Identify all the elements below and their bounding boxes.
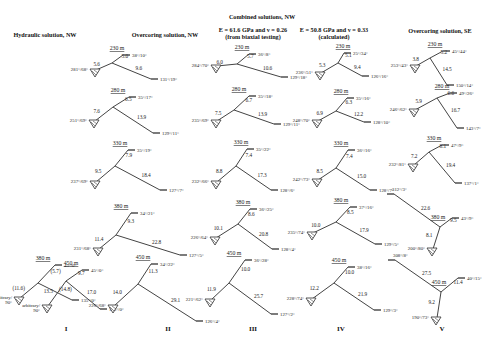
depth-label: 230 m: [110, 45, 125, 51]
well-symbol-icon: [312, 120, 322, 128]
stress-branch-c: [430, 58, 447, 85]
magnitude-label-a: 10.1: [214, 225, 224, 231]
orientation-label-a: 237°/69°: [71, 179, 88, 184]
well-symbol-icon: [307, 232, 317, 240]
well-symbol-icon: [89, 120, 99, 128]
orientation-label-a: 90°: [5, 300, 12, 305]
stress-branch-c: [334, 283, 374, 310]
orientation-label-c: 126°/16°: [371, 74, 388, 79]
depth-label: 380 m: [431, 214, 446, 220]
magnitude-label-b: 8.5: [347, 209, 354, 215]
magnitude-label-c: (14.8): [59, 286, 72, 293]
orientation-label-b: 35°/17°: [138, 95, 153, 100]
orientation-label-c: 150°/14°: [456, 83, 473, 88]
magnitude-label-a: 9.5: [95, 168, 102, 174]
magnitude-label-a: 7.6: [93, 108, 100, 114]
magnitude-label-b: 10.0: [241, 266, 251, 272]
magnitude-label-a: 11.4: [94, 236, 103, 242]
orientation-label-b: 35°/22°: [256, 147, 271, 152]
well-symbol-icon: [312, 179, 322, 187]
orientation-label-c: 126°/4°: [205, 319, 220, 324]
magnitude-label-a: 7.5: [215, 110, 222, 116]
well-symbol-icon: [90, 69, 100, 77]
magnitude-label-c: 17.9: [360, 227, 370, 233]
magnitude-label-a: 10.0: [311, 222, 321, 228]
stress-branch-c: [112, 63, 151, 79]
well-symbol-icon: [210, 237, 220, 245]
stress-branch-c: [138, 284, 196, 321]
magnitude-label-b: 6.3: [346, 99, 353, 105]
orientation-label-b: 25°/34°: [353, 51, 368, 56]
orientation-label-c: 128°/6°: [280, 188, 295, 193]
stress-branch-a: [437, 292, 441, 318]
magnitude-label-a: (11.6): [12, 285, 25, 292]
magnitude-label-c: 29.1: [171, 297, 181, 303]
orientation-label-b: 37°/16°: [359, 205, 374, 210]
well-symbol-icon: [315, 72, 325, 80]
magnitude-label-b: 11.3: [149, 268, 158, 274]
magnitude-label-b: 7.9: [126, 152, 133, 158]
orientation-label-a: 200°/80°: [408, 246, 425, 251]
magnitude-label-b: 11.4: [454, 279, 463, 285]
stress-branch-b: [338, 53, 344, 63]
orientation-label-c: 127°/2°: [280, 312, 295, 317]
magnitude-label-c: 10.6: [263, 65, 273, 71]
stress-branch-c: [116, 235, 180, 255]
well-symbol-icon: [205, 299, 215, 307]
magnitude-label-a: 3.8: [412, 56, 419, 62]
orientation-label-c: 127°/7°: [169, 188, 184, 193]
orientation-label-a: 221°/62°: [186, 297, 203, 302]
orientation-label-c: 127°/5°: [189, 253, 204, 258]
stress-branch-a: [433, 227, 440, 249]
magnitude-label-a: 6.0: [216, 59, 223, 65]
orientation-label-c: 131°/19°: [160, 77, 177, 82]
orientation-label-b: 40°/15°: [467, 276, 482, 281]
magnitude-label-c: 9.6: [136, 65, 143, 71]
magnitude-label-a: 5.9: [415, 98, 422, 104]
stress-branch-a: [48, 281, 66, 306]
magnitude-label-c: 17.0: [87, 289, 97, 295]
orientation-label-b: 43°/9°: [461, 216, 473, 221]
depth-label: 380 m: [236, 199, 251, 205]
stress-branch-c: [437, 98, 457, 128]
column-label-II: II: [158, 325, 178, 333]
magnitude-label-c: 15.0: [357, 173, 367, 179]
magnitude-label-b: 10.0: [345, 269, 355, 275]
well-symbol-icon: [410, 65, 420, 73]
orientation-label-a: 251°/69°: [70, 118, 87, 123]
magnitude-label-b: 7.4: [346, 153, 353, 159]
column-label-III: III: [243, 325, 263, 333]
well-symbol-icon: [211, 65, 221, 73]
orientation-label-c: 137°/1°: [464, 181, 479, 186]
stress-branch-c: [115, 166, 160, 190]
depth-label: 230 m: [428, 41, 443, 47]
magnitude-label-c: 16.7: [451, 107, 461, 113]
depth-label: 380 m: [36, 255, 51, 261]
magnitude-label-c: 20.8: [259, 231, 269, 237]
stress-branch-c: [336, 222, 375, 244]
depth-label: 280 m: [334, 88, 349, 94]
well-symbol-icon: [408, 164, 418, 172]
orientation-label-a: 235°/74°: [288, 230, 305, 235]
orientation-label-a: 231°/68°: [74, 246, 91, 251]
orientation-label-b: 49°/26°: [459, 91, 474, 96]
magnitude-label-b: 6.7: [246, 97, 253, 103]
orientation-label-a: 235°/69°: [192, 118, 209, 123]
orientation-label-b: 36°/28°: [254, 258, 269, 263]
orientation-label-b: 35°/19°: [137, 148, 152, 153]
depth-label: 380 m: [334, 197, 349, 203]
magnitude-label-b: 7.4: [246, 152, 253, 158]
well-symbol-icon: [427, 248, 437, 256]
stress-diagrams-canvas: (11.6)(5.7)(14.8)arbitrary/90°45°/0°135°…: [0, 0, 494, 345]
magnitude-label-a: 12.2: [310, 285, 320, 291]
orientation-label-b: 38°/10°: [132, 53, 147, 58]
magnitude-label-c: 21.9: [358, 291, 368, 297]
orientation-label-b: 36°/16°: [357, 148, 372, 153]
orientation-label-c: 129°/11°: [162, 131, 179, 136]
stress-branch-b: [138, 264, 151, 284]
orientation-label-a: 242°/73°: [293, 177, 310, 182]
depth-label: 280 m: [111, 87, 126, 93]
stress-branch-c: [113, 107, 153, 133]
stress-branch-c: [395, 260, 441, 292]
orientation-label-c: 312°/3°: [392, 187, 407, 192]
